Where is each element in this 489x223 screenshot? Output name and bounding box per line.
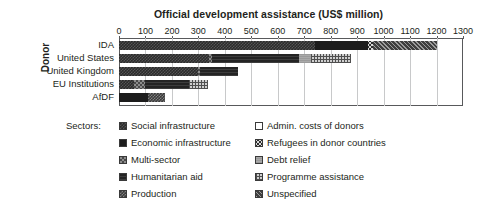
bar-segment[interactable]: [119, 80, 134, 89]
x-tick-label: 400: [217, 26, 232, 36]
legend-item-programme-assistance[interactable]: Programme assistance: [255, 171, 364, 182]
bar-segment[interactable]: [148, 93, 165, 102]
bar-segment[interactable]: [119, 54, 209, 63]
legend-item-label: Multi-sector: [131, 154, 180, 165]
x-tick-label: 1000: [374, 26, 394, 36]
legend-swatch-icon: [119, 156, 127, 164]
x-tick-label: 600: [270, 26, 285, 36]
x-tick-label: 300: [191, 26, 206, 36]
chart-title: Official development assistance (US$ mil…: [0, 8, 489, 20]
legend-swatch-icon: [255, 122, 263, 130]
legend-swatch-icon: [255, 190, 263, 198]
legend-title: Sectors:: [66, 120, 101, 131]
bar-afdf[interactable]: [119, 93, 165, 102]
bar-eu-institutions[interactable]: [119, 80, 208, 89]
chart-figure: Official development assistance (US$ mil…: [0, 0, 489, 223]
x-tick-label: 700: [297, 26, 312, 36]
x-tick-label: 500: [244, 26, 259, 36]
bar-segment[interactable]: [311, 54, 351, 63]
legend: Sectors: Social infrastructureEconomic i…: [0, 118, 489, 213]
axis-bottom-line: [119, 105, 463, 106]
bar-segment[interactable]: [189, 80, 208, 89]
legend-item-label: Production: [131, 188, 176, 199]
category-label-afdf: AfDF: [92, 91, 114, 102]
legend-item-humanitarian-aid[interactable]: Humanitarian aid: [119, 171, 203, 182]
x-tick-mark: [463, 36, 464, 39]
bar-segment[interactable]: [299, 54, 311, 63]
gridline: [437, 38, 438, 106]
legend-item-label: Admin. costs of donors: [267, 120, 364, 131]
legend-item-social-infrastructure[interactable]: Social infrastructure: [119, 120, 215, 131]
x-axis-ticks: 0100200300400500600700800900100011001200…: [119, 26, 463, 38]
x-tick-label: 200: [164, 26, 179, 36]
bar-segment[interactable]: [134, 80, 146, 89]
x-tick-label: 800: [323, 26, 338, 36]
bar-united-states[interactable]: [119, 54, 351, 63]
x-tick-label: 100: [138, 26, 153, 36]
bar-segment[interactable]: [119, 41, 315, 50]
bar-segment[interactable]: [145, 80, 189, 89]
legend-item-label: Refugees in donor countries: [267, 137, 386, 148]
x-tick-label: 1200: [427, 26, 447, 36]
legend-swatch-icon: [119, 190, 127, 198]
legend-item-production[interactable]: Production: [119, 188, 176, 199]
bar-ida[interactable]: [119, 41, 437, 50]
category-label-united-states: United States: [57, 52, 114, 63]
legend-swatch-icon: [119, 173, 127, 181]
bar-segment[interactable]: [373, 41, 437, 50]
x-tick-label: 1100: [400, 26, 419, 36]
legend-item-label: Unspecified: [267, 188, 317, 199]
category-label-ida: IDA: [98, 39, 114, 50]
y-axis-category-labels: IDAUnited StatesUnited KingdomEU Institu…: [0, 38, 119, 106]
legend-swatch-icon: [255, 156, 263, 164]
category-label-united-kingdom: United Kingdom: [46, 65, 114, 76]
axis-right-line: [462, 38, 463, 106]
legend-item-unspecified[interactable]: Unspecified: [255, 188, 317, 199]
bar-united-kingdom[interactable]: [119, 67, 238, 76]
x-tick-label: 900: [350, 26, 365, 36]
legend-item-refugees-in-donor-countries[interactable]: Refugees in donor countries: [255, 137, 386, 148]
category-label-eu-institutions: EU Institutions: [53, 78, 114, 89]
axis-top-line: [119, 38, 463, 39]
chart-title-text: Official development assistance (US$ mil…: [154, 8, 383, 20]
bar-segment[interactable]: [315, 41, 368, 50]
bar-segment[interactable]: [119, 67, 198, 76]
legend-swatch-icon: [119, 122, 127, 130]
legend-swatch-icon: [255, 173, 263, 181]
legend-item-multi-sector[interactable]: Multi-sector: [119, 154, 180, 165]
legend-item-admin-costs-of-donors[interactable]: Admin. costs of donors: [255, 120, 364, 131]
bar-segment[interactable]: [200, 67, 237, 76]
legend-item-label: Economic infrastructure: [131, 137, 231, 148]
legend-item-label: Debt relief: [267, 154, 310, 165]
legend-item-label: Humanitarian aid: [131, 171, 203, 182]
legend-swatch-icon: [119, 139, 127, 147]
bar-segment[interactable]: [212, 54, 299, 63]
plot-area: [119, 38, 463, 106]
legend-item-economic-infrastructure[interactable]: Economic infrastructure: [119, 137, 231, 148]
bar-segment[interactable]: [119, 93, 148, 102]
legend-item-label: Social infrastructure: [131, 120, 215, 131]
x-tick-label: 0: [116, 26, 121, 36]
legend-item-label: Programme assistance: [267, 171, 364, 182]
legend-swatch-icon: [255, 139, 263, 147]
x-tick-label: 1300: [453, 26, 473, 36]
legend-item-debt-relief[interactable]: Debt relief: [255, 154, 310, 165]
